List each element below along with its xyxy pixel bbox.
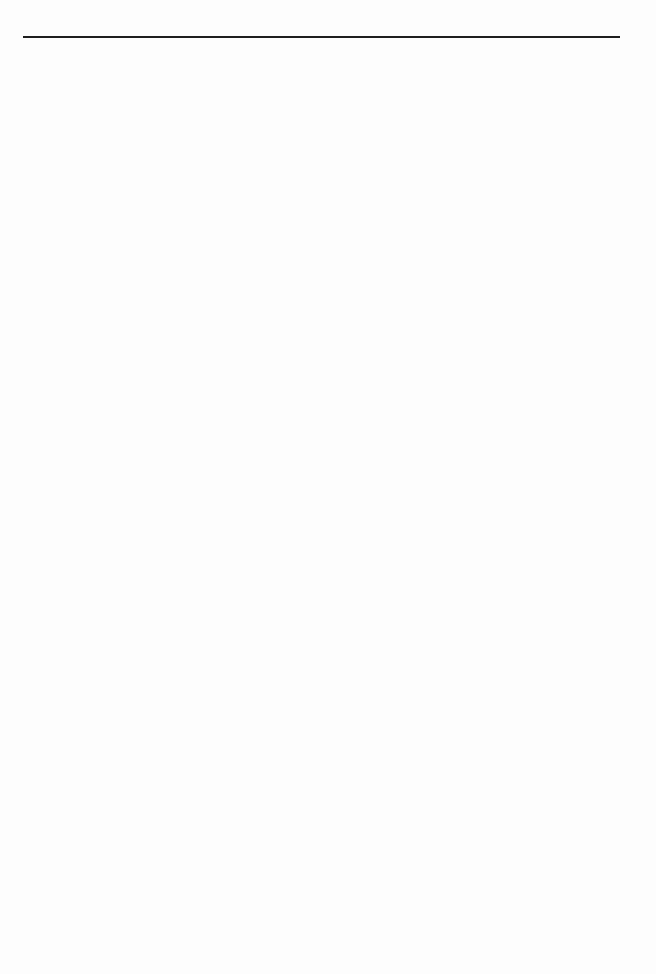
lined-paper-page — [0, 0, 656, 974]
header-rule — [23, 36, 620, 38]
